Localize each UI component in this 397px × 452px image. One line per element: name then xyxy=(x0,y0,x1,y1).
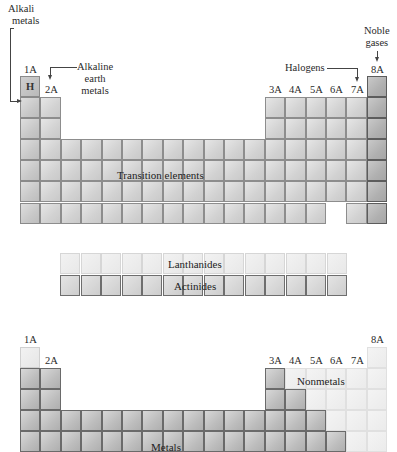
alkaline-earth-callout-line xyxy=(50,67,77,68)
element-cell-noble-gas xyxy=(367,118,387,139)
element-cell-alkali xyxy=(20,203,40,224)
element-cell-halogen xyxy=(346,118,366,139)
alkaline-earth-arrow-icon xyxy=(48,75,52,80)
element-cell-transition xyxy=(122,181,142,202)
element-cell-metal xyxy=(265,431,285,452)
element-cell-transition xyxy=(224,203,244,224)
element-cell-transition xyxy=(244,181,264,202)
element-cell-main-group xyxy=(285,160,305,181)
element-cell-metal xyxy=(326,431,346,452)
element-cell-alkali xyxy=(20,139,40,160)
bottom-group-label-5a: 5A xyxy=(306,355,327,367)
alkali-metals-label-line2: metals xyxy=(8,15,39,27)
element-cell-metal xyxy=(265,368,285,389)
element-cell-nonmetal xyxy=(326,410,346,431)
element-cell-transition xyxy=(244,203,264,224)
element-cell-metal xyxy=(285,389,305,410)
element-cell-nonmetal xyxy=(326,389,346,410)
alkali-metals-label-line1: Alkali xyxy=(8,3,39,15)
element-cell-metal xyxy=(224,410,244,431)
element-cell-metal xyxy=(40,431,60,452)
element-cell-main-group xyxy=(306,97,326,118)
element-cell-nonmetal xyxy=(367,431,387,452)
element-cell-halogen xyxy=(346,203,366,224)
element-cell-metal xyxy=(163,410,183,431)
element-cell-transition xyxy=(142,139,162,160)
element-cell-metal xyxy=(102,431,122,452)
actinide-cell xyxy=(265,275,285,296)
bottom-group-label-2a: 2A xyxy=(41,355,62,367)
element-cell-alkaline-earth xyxy=(40,118,60,139)
bottom-group-label-4a: 4A xyxy=(285,355,306,367)
element-cell-main-group xyxy=(265,203,285,224)
alkali-callout-line xyxy=(10,28,11,102)
element-cell-transition xyxy=(163,181,183,202)
lanthanide-cell xyxy=(245,253,265,274)
element-cell-metal xyxy=(285,410,305,431)
halogens-arrow-icon xyxy=(355,77,359,82)
alkaline-earth-label-line2: earth xyxy=(77,73,113,85)
element-cell-transition xyxy=(61,139,81,160)
element-cell-nonmetal xyxy=(367,389,387,410)
element-cell-transition xyxy=(102,139,122,160)
element-cell-metal xyxy=(122,410,142,431)
element-cell-main-group xyxy=(285,118,305,139)
element-cell-transition xyxy=(163,139,183,160)
nonmetals-label: Nonmetals xyxy=(297,375,345,387)
element-cell-metal xyxy=(204,431,224,452)
element-cell-alkali xyxy=(20,160,40,181)
element-cell-metal xyxy=(265,410,285,431)
element-cell-halogen xyxy=(346,160,366,181)
element-cell-alkaline-earth xyxy=(40,160,60,181)
element-cell-alkaline-earth xyxy=(40,203,60,224)
halogens-callout-line xyxy=(327,68,358,69)
element-cell-halogen xyxy=(346,181,366,202)
element-cell-transition xyxy=(81,139,101,160)
element-cell-transition xyxy=(122,139,142,160)
element-cell-transition xyxy=(61,181,81,202)
element-cell-nonmetal xyxy=(367,368,387,389)
element-cell-main-group xyxy=(265,97,285,118)
element-cell-nonmetal xyxy=(346,368,366,389)
element-cell-metal xyxy=(40,368,60,389)
actinide-cell xyxy=(81,275,101,296)
noble-gases-arrow-icon xyxy=(375,57,379,62)
element-cell-transition xyxy=(102,203,122,224)
group-label-8a: 8A xyxy=(367,64,388,76)
element-cell-transition xyxy=(183,203,203,224)
group-label-4a: 4A xyxy=(285,84,306,96)
element-cell-main-group xyxy=(306,139,326,160)
element-cell-halogen xyxy=(346,97,366,118)
element-cell-transition xyxy=(142,181,162,202)
actinide-cell xyxy=(101,275,121,296)
element-cell-transition xyxy=(244,139,264,160)
group-label-3a: 3A xyxy=(265,84,286,96)
element-cell-alkaline-earth xyxy=(40,181,60,202)
element-cell-main-group xyxy=(265,139,285,160)
element-cell-transition xyxy=(204,160,224,181)
actinide-cell xyxy=(286,275,306,296)
element-cell-nonmetal xyxy=(306,389,326,410)
element-cell-main-group xyxy=(306,203,326,224)
element-cell-main-group xyxy=(285,139,305,160)
alkali-arrow-icon xyxy=(17,99,22,103)
element-cell-main-group xyxy=(306,160,326,181)
element-cell-metal xyxy=(20,368,40,389)
actinide-cell xyxy=(224,275,244,296)
noble-gases-label-line2: gases xyxy=(364,37,390,49)
alkali-callout-line xyxy=(10,28,14,29)
element-cell-transition xyxy=(61,160,81,181)
element-cell-transition xyxy=(142,203,162,224)
actinide-cell xyxy=(245,275,265,296)
actinide-cell xyxy=(142,275,162,296)
element-cell-halogen xyxy=(346,139,366,160)
lanthanide-cell xyxy=(101,253,121,274)
element-cell-transition xyxy=(102,181,122,202)
actinide-cell xyxy=(122,275,142,296)
element-cell-main-group xyxy=(265,118,285,139)
element-cell-nonmetal xyxy=(367,410,387,431)
element-cell-metal xyxy=(306,410,326,431)
element-cell-noble-gas xyxy=(367,76,387,97)
element-cell-nonmetal xyxy=(346,389,366,410)
element-cell-noble-gas xyxy=(367,97,387,118)
